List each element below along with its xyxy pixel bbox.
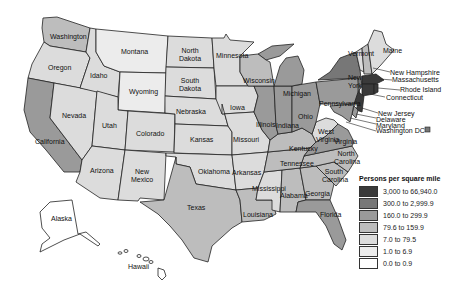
label-georgia: Georgia [305, 190, 330, 198]
label-louisiana: Louisiana [243, 211, 273, 219]
legend-item: 1.0 to 6.9 [359, 245, 440, 257]
label-north-carolina: North Carolina [334, 150, 358, 166]
label-wyoming: Wyoming [129, 88, 158, 96]
label-washington: Washington [50, 33, 87, 41]
legend-item: 300.0 to 2,999.9 [359, 197, 440, 209]
label-west-virginia: West Virginia [316, 128, 336, 144]
label-connecticut: Connecticut [386, 94, 423, 102]
legend-label: 0.0 to 0.9 [383, 260, 412, 267]
label-arizona: Arizona [90, 167, 114, 175]
label-illinois: Illinois [256, 121, 275, 129]
legend-item: 160.0 to 299.9 [359, 209, 440, 221]
legend-item: 0.0 to 0.9 [359, 257, 440, 269]
label-new-mexico: New Mexico [130, 168, 154, 184]
label-virginia: Virginia [334, 138, 357, 146]
label-texas: Texas [187, 204, 205, 212]
legend-label: 3,000 to 66,940.0 [383, 188, 438, 195]
label-oregon: Oregon [48, 64, 71, 72]
label-nevada: Nevada [62, 112, 86, 120]
legend-swatch [359, 210, 378, 221]
label-montana: Montana [121, 48, 148, 56]
legend-swatch [359, 246, 378, 257]
legend-item: 3,000 to 66,940.0 [359, 185, 440, 197]
legend-swatch [359, 222, 378, 233]
label-wisconsin: Wisconsin [243, 77, 275, 85]
label-indiana: Indiana [276, 122, 299, 130]
legend-swatch [359, 186, 378, 197]
state-florida[interactable] [296, 200, 346, 250]
state-rhode-island[interactable] [374, 84, 378, 94]
label-rhode-island: Rhode Island [400, 86, 441, 94]
legend-title: Persons per square mile [359, 175, 440, 182]
legend-item: 79.6 to 159.9 [359, 221, 440, 233]
dc-swatch [425, 127, 430, 132]
legend: Persons per square mile 3,000 to 66,940.… [359, 175, 440, 269]
label-kansas: Kansas [190, 136, 213, 144]
legend-label: 79.6 to 159.9 [383, 224, 424, 231]
label-ohio: Ohio [298, 113, 313, 121]
legend-label: 160.0 to 299.9 [383, 212, 428, 219]
label-hawaii: Hawaii [128, 263, 149, 271]
label-vermont: Vermont [348, 50, 374, 58]
legend-swatch [359, 198, 378, 209]
label-washington-dc: Washington DC [376, 127, 425, 135]
label-oklahoma: Oklahoma [198, 168, 230, 176]
legend-swatch [359, 234, 378, 245]
label-alabama: Alabama [280, 192, 308, 200]
label-idaho: Idaho [90, 72, 108, 80]
label-pennsylvania: Pennsylvania [319, 100, 361, 108]
label-michigan: Michigan [283, 90, 311, 98]
label-tennessee: Tennessee [280, 160, 314, 168]
label-south-carolina: South Carolina [322, 168, 346, 184]
label-iowa: Iowa [230, 104, 245, 112]
legend-label: 1.0 to 6.9 [383, 248, 412, 255]
label-nebraska: Nebraska [176, 108, 206, 116]
label-minnesota: Minnesota [216, 52, 248, 60]
legend-item: 7.0 to 79.5 [359, 233, 440, 245]
state-alaska[interactable] [40, 200, 100, 252]
legend-label: 300.0 to 2,999.9 [383, 200, 434, 207]
label-north-dakota: North Dakota [177, 47, 203, 63]
label-new-york: New York [345, 74, 365, 90]
label-arkansas: Arkansas [232, 169, 261, 177]
legend-swatch [359, 258, 378, 269]
label-missouri: Missouri [233, 136, 259, 144]
label-utah: Utah [102, 122, 117, 130]
legend-label: 7.0 to 79.5 [383, 236, 416, 243]
label-maine: Maine [383, 47, 402, 55]
label-kentucky: Kentucky [289, 145, 318, 153]
label-south-dakota: South Dakota [177, 77, 203, 93]
label-massachusetts: Massachusetts [392, 76, 439, 84]
label-florida: Florida [320, 211, 341, 219]
label-california: California [35, 138, 65, 146]
label-alaska: Alaska [51, 215, 72, 223]
label-colorado: Colorado [136, 130, 164, 138]
